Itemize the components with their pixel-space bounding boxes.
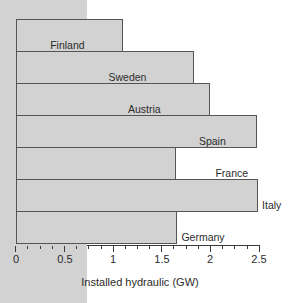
bar-austria <box>16 83 210 116</box>
x-tick-minor-3 <box>52 246 53 249</box>
x-tick-minor-5 <box>88 246 89 249</box>
bar-chart: Finland Sweden Austria Spain France Ital… <box>0 0 29 303</box>
x-tick-minor-1 <box>27 246 28 249</box>
bar-label-italy: Italy <box>262 200 281 211</box>
bar-label-france: France <box>215 168 248 179</box>
x-tick-minor-7 <box>125 246 126 249</box>
x-tick-minor-15 <box>247 246 248 249</box>
bar-label-germany: Germany <box>181 232 224 243</box>
x-tick-minor-13 <box>222 246 223 249</box>
x-tick-label-3: 1.5 <box>154 254 169 265</box>
x-tick-minor-9 <box>149 246 150 249</box>
x-tick-minor-4 <box>76 246 77 249</box>
x-tick-label-0: 0 <box>13 254 19 265</box>
plot-area: Finland Sweden Austria Spain France Ital… <box>0 0 295 303</box>
x-tick-minor-10 <box>173 246 174 249</box>
bar-italy <box>16 179 258 212</box>
bar-germany <box>16 211 177 244</box>
bar-label-austria: Austria <box>128 104 161 115</box>
x-axis-title: Installed hydraulic (GW) <box>0 277 280 288</box>
bar-label-finland: Finland <box>50 40 84 51</box>
bar-sweden <box>16 51 194 84</box>
x-tick-label-5: 2.5 <box>251 254 266 265</box>
bar-france <box>16 147 176 180</box>
x-tick-major-3 <box>161 246 162 252</box>
x-tick-minor-2 <box>40 246 41 249</box>
x-tick-label-2: 1 <box>110 254 116 265</box>
x-tick-minor-11 <box>186 246 187 249</box>
x-tick-major-0 <box>15 246 16 252</box>
x-tick-minor-6 <box>101 246 102 249</box>
x-tick-minor-12 <box>198 246 199 249</box>
bar-label-spain: Spain <box>199 136 226 147</box>
x-tick-major-2 <box>113 246 114 252</box>
x-tick-label-1: 0.5 <box>57 254 72 265</box>
x-tick-major-5 <box>259 246 260 252</box>
x-tick-major-1 <box>64 246 65 252</box>
x-tick-label-4: 2 <box>207 254 213 265</box>
x-tick-major-4 <box>210 246 211 252</box>
bar-label-sweden: Sweden <box>108 72 146 83</box>
x-tick-minor-14 <box>234 246 235 249</box>
x-tick-minor-8 <box>137 246 138 249</box>
